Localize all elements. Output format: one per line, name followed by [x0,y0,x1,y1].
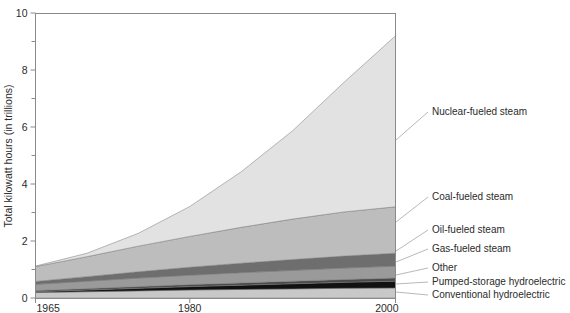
series-label: Other [432,262,458,273]
x-tick-label: 1965 [37,302,61,313]
y-tick-label: 8 [22,64,28,76]
y-tick-label: 4 [22,178,28,190]
series-label: Oil-fueled steam [432,224,505,235]
x-tick-label: 2000 [375,302,399,313]
series-label: Gas-fueled steam [432,243,511,254]
y-tick-label: 0 [22,292,28,304]
y-tick-label: 2 [22,235,28,247]
chart-canvas: 0246810 196519802000 Total kilowatt hour… [0,0,570,313]
series-label: Coal-fueled steam [432,191,513,202]
y-axis-title: Total kilowatt hours (in trillions) [2,85,14,228]
x-tick-label: 1980 [178,302,202,313]
series-label: Conventional hydroelectric [432,289,550,300]
y-tick-label: 6 [22,121,28,133]
series-label: Pumped-storage hydroelectric [432,276,565,287]
y-tick-label: 10 [16,7,28,19]
stacked-area-chart: 0246810 196519802000 Total kilowatt hour… [0,0,570,313]
series-label: Nuclear-fueled steam [432,106,527,117]
